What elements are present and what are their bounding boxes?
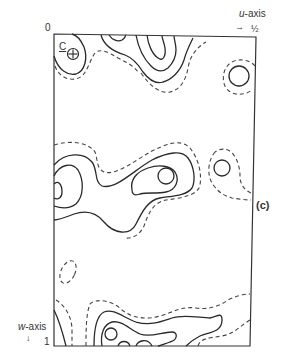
contour-middle-right-outer bbox=[132, 166, 178, 195]
contour-bottom-left-corner bbox=[54, 310, 66, 346]
contour-map bbox=[0, 0, 282, 361]
dashed-contour-bottom-right bbox=[198, 320, 250, 346]
contour-middle-right-peak bbox=[158, 168, 174, 184]
atom-marker-icon bbox=[68, 49, 79, 60]
contour-top-center-small bbox=[109, 35, 125, 41]
contour-bottom-small-1 bbox=[118, 342, 130, 347]
dashed-contour-right bbox=[209, 149, 251, 200]
plot-frame bbox=[54, 34, 256, 346]
dashed-contour-middle-upper bbox=[54, 142, 201, 238]
contour-top-center-2 bbox=[136, 35, 176, 71]
contour-top-center-3 bbox=[147, 35, 165, 59]
dashed-contour-top-right bbox=[223, 60, 255, 94]
contour-top-center-1 bbox=[101, 35, 193, 83]
contour-top-right bbox=[229, 66, 249, 86]
contour-right-small bbox=[214, 160, 230, 176]
contour-bottom-peak bbox=[105, 328, 117, 340]
contour-middle-2 bbox=[54, 165, 82, 208]
contour-middle-3 bbox=[54, 182, 62, 198]
contour-bottom-small-2 bbox=[136, 341, 152, 346]
contour-middle-1 bbox=[54, 153, 194, 232]
dashed-contour-lower-left bbox=[57, 258, 80, 286]
